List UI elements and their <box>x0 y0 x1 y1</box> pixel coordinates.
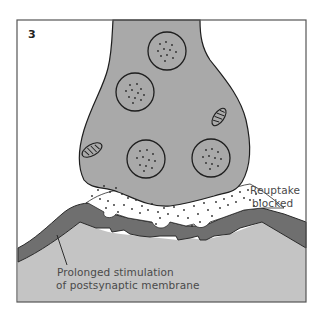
vesicle <box>116 73 154 111</box>
stimulation-label-line2: of postsynaptic membrane <box>56 278 200 292</box>
reuptake-label-line1: Reuptake <box>250 183 300 197</box>
panel-number: 3 <box>28 28 36 41</box>
vesicle <box>192 139 230 177</box>
vesicle <box>148 32 186 70</box>
stimulation-label-line1: Prolonged stimulation <box>57 265 174 279</box>
vesicle <box>127 140 165 178</box>
synapse-diagram: 3 Reuptake blocked Prolonged stimulation… <box>0 0 323 317</box>
reuptake-label-line2: blocked <box>252 196 293 210</box>
